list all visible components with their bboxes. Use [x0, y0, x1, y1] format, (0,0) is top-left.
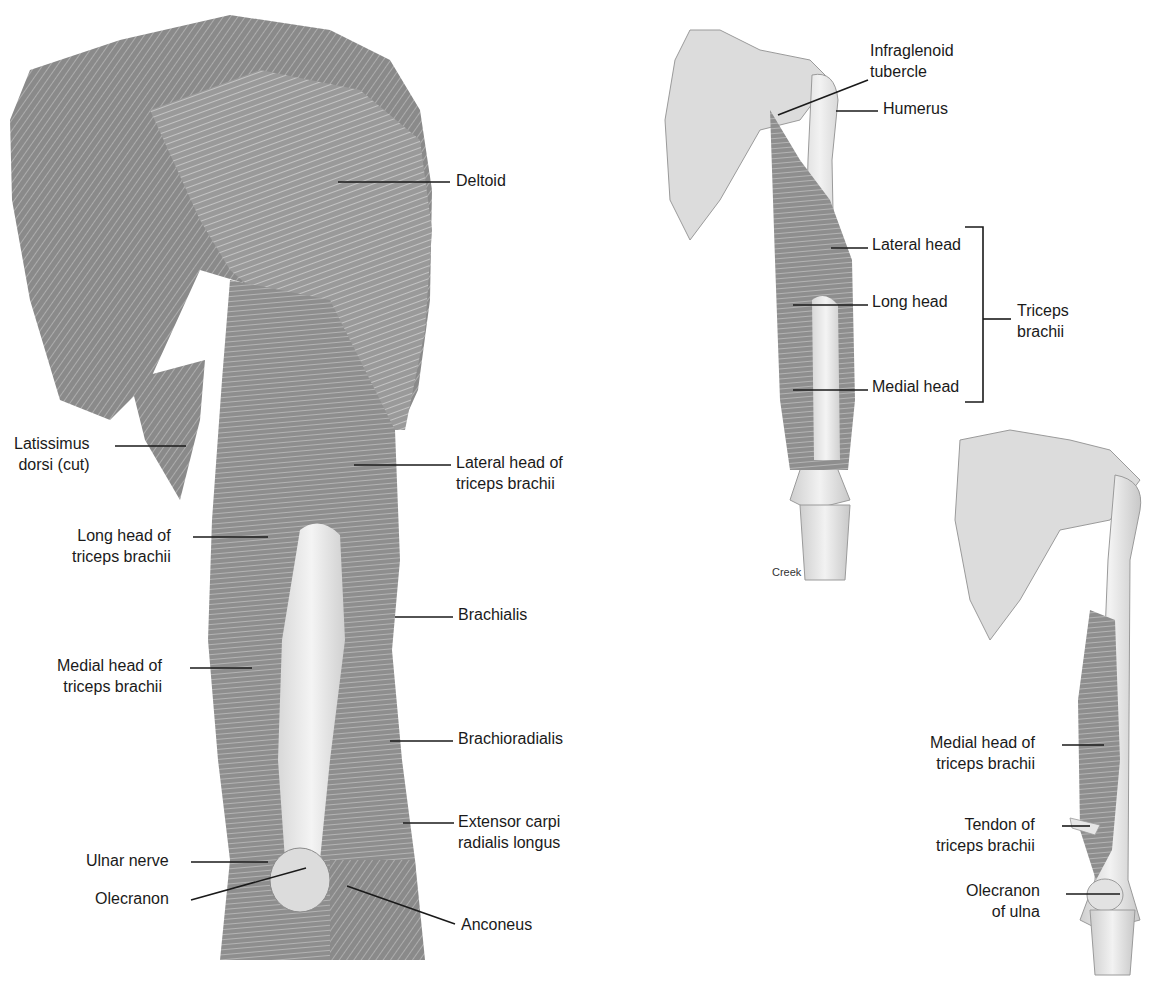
label-medial-head-triceps-deep: Medial head of triceps brachii [930, 732, 1035, 774]
label-humerus: Humerus [883, 98, 948, 119]
label-lateral-head-triceps: Lateral head of triceps brachii [456, 452, 563, 494]
label-brachialis: Brachialis [458, 604, 527, 625]
label-long-head-triceps: Long head of triceps brachii [72, 525, 171, 567]
posterior-arm-drawing [10, 15, 432, 960]
label-tendon-triceps: Tendon of triceps brachii [936, 814, 1035, 856]
label-lateral-head: Lateral head [872, 234, 961, 255]
illustrator-credit: Creek [772, 566, 801, 578]
label-ulnar-nerve: Ulnar nerve [86, 850, 169, 871]
label-brachioradialis: Brachioradialis [458, 728, 563, 749]
label-olecranon: Olecranon [95, 888, 169, 909]
label-medial-head: Medial head [872, 376, 959, 397]
label-extensor-carpi-radialis-longus: Extensor carpi radialis longus [458, 811, 560, 853]
label-medial-head-triceps: Medial head of triceps brachii [57, 655, 162, 697]
label-latissimus-dorsi: Latissimus dorsi (cut) [14, 433, 90, 475]
label-infraglenoid-tubercle: Infraglenoid tubercle [870, 40, 954, 82]
label-long-head: Long head [872, 291, 948, 312]
label-triceps-brachii: Triceps brachii [1017, 300, 1069, 342]
label-olecranon-of-ulna: Olecranon of ulna [966, 880, 1040, 922]
label-deltoid: Deltoid [456, 170, 506, 191]
label-anconeus: Anconeus [461, 914, 532, 935]
